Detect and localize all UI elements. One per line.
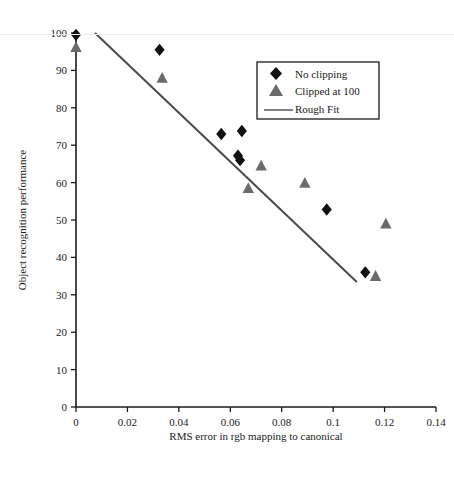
scatter-plot-figure: 0102030405060708090100 00.020.040.060.08… [0, 0, 454, 478]
y-tick-label: 100 [51, 27, 68, 39]
x-axis-title: RMS error in rgb mapping to canonical [169, 430, 342, 442]
y-tick-label: 60 [56, 177, 68, 189]
axes-group [76, 33, 436, 407]
x-tick-label: 0.08 [272, 416, 292, 428]
y-tick-label: 80 [56, 102, 68, 114]
y-axis-title: Object recognition performance [16, 150, 28, 291]
chart-canvas: 0102030405060708090100 00.020.040.060.08… [0, 0, 454, 478]
data-point-no-clipping [216, 128, 226, 140]
data-point-clipped-at-100 [370, 270, 381, 281]
legend-label-clipped-at-100: Clipped at 100 [295, 85, 360, 97]
y-tick-label: 30 [56, 289, 68, 301]
y-tick-label: 50 [56, 214, 68, 226]
x-tick-label: 0.06 [221, 416, 241, 428]
legend: No clipping Clipped at 100 Rough Fit [257, 62, 379, 119]
y-axis-tick-labels: 0102030405060708090100 [51, 27, 68, 413]
data-point-no-clipping [360, 266, 370, 278]
data-point-clipped-at-100 [380, 218, 391, 229]
scan-artifact-line [0, 34, 454, 35]
x-axis-tick-labels: 00.020.040.060.080.10.120.14 [73, 416, 446, 428]
data-point-clipped-at-100 [255, 160, 266, 171]
data-point-no-clipping [322, 203, 332, 215]
data-point-clipped-at-100 [156, 72, 167, 83]
legend-label-no-clipping: No clipping [295, 68, 348, 80]
y-tick-label: 20 [56, 326, 68, 338]
legend-label-rough-fit: Rough Fit [295, 103, 339, 115]
y-tick-label: 70 [56, 139, 68, 151]
x-tick-label: 0.1 [326, 416, 340, 428]
x-tick-label: 0.02 [118, 416, 137, 428]
y-tick-label: 10 [56, 364, 68, 376]
x-tick-label: 0.04 [169, 416, 189, 428]
data-point-no-clipping [237, 125, 247, 137]
data-point-no-clipping [154, 44, 164, 56]
y-tick-label: 40 [56, 251, 68, 263]
x-tick-label: 0 [73, 416, 79, 428]
data-point-clipped-at-100 [299, 177, 310, 188]
y-tick-label: 90 [56, 64, 68, 76]
data-point-clipped-at-100 [70, 41, 81, 52]
y-tick-label: 0 [62, 401, 68, 413]
x-tick-label: 0.14 [426, 416, 446, 428]
x-tick-label: 0.12 [375, 416, 394, 428]
